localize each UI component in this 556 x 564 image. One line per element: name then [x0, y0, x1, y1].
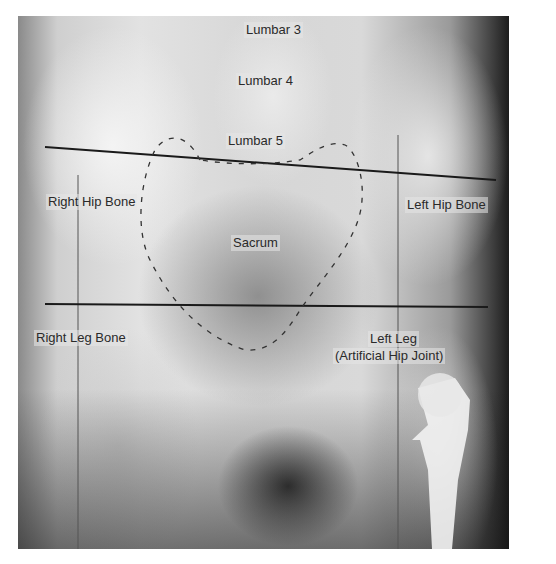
- pelvis-xray-image: [18, 16, 509, 549]
- label-sacrum: Sacrum: [231, 235, 280, 251]
- label-right-leg-bone: Right Leg Bone: [34, 330, 128, 346]
- label-artificial-hip-joint: (Artificial Hip Joint): [333, 348, 445, 364]
- label-lumbar-4: Lumbar 4: [236, 73, 295, 89]
- label-left-leg: Left Leg: [368, 331, 419, 347]
- label-right-hip-bone: Right Hip Bone: [46, 194, 137, 210]
- label-left-hip-bone: Left Hip Bone: [405, 197, 488, 213]
- label-lumbar-3: Lumbar 3: [244, 22, 303, 38]
- label-lumbar-5: Lumbar 5: [226, 133, 285, 149]
